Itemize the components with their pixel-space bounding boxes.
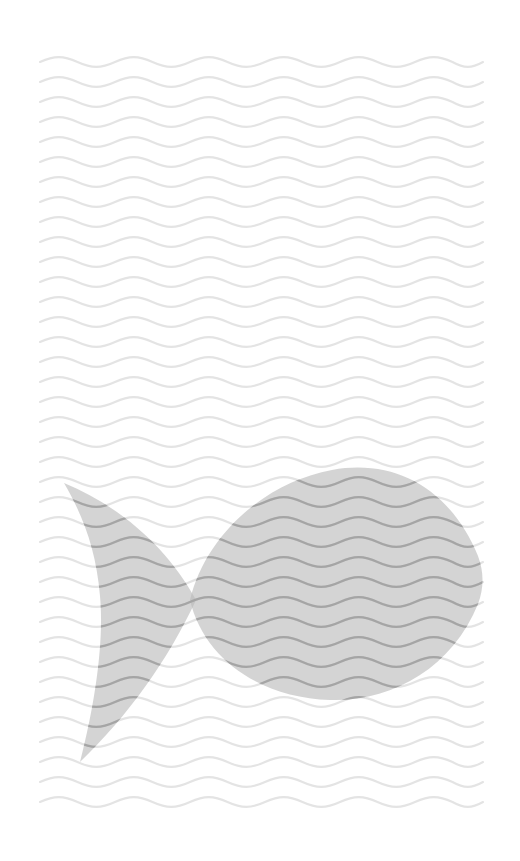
canvas-background <box>0 0 520 861</box>
fish-illustration: Fish Silhouette on Wave Pattern <box>0 0 520 861</box>
artwork-canvas: Fish Silhouette on Wave Pattern <box>0 0 520 861</box>
